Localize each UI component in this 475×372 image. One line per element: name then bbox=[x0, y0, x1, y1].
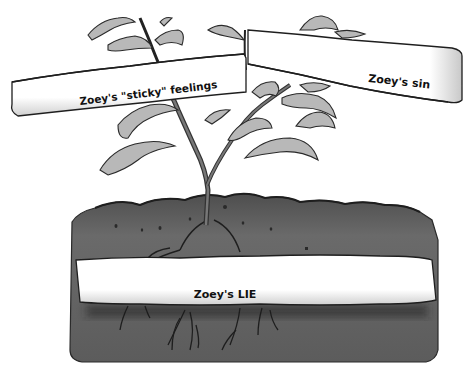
label-lie: Zoey's LIE bbox=[194, 288, 257, 301]
banner-feelings: Zoey's "sticky" feelings bbox=[12, 54, 246, 116]
banner-lie: Zoey's LIE bbox=[76, 255, 436, 317]
tree-illustration: Zoey's sin Zoey's "sticky" feelings Zoey… bbox=[0, 0, 475, 372]
